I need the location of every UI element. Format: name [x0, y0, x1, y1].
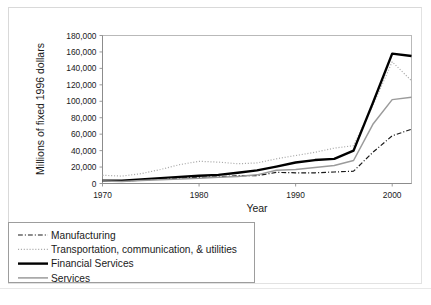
y-tick-label: 180,000 [66, 31, 97, 41]
y-tick-label: 160,000 [66, 47, 97, 57]
x-axis-tick-labels: 1970198019902000 [93, 190, 402, 200]
x-tick-label: 2000 [383, 190, 402, 200]
y-tick-label: 120,000 [66, 80, 97, 90]
x-tick-label: 1970 [93, 190, 112, 200]
y-tick-label: 60,000 [71, 129, 97, 139]
legend-label-0: Manufacturing [51, 230, 116, 241]
line-chart: 020,00040,00060,00080,000100,000120,0001… [0, 0, 431, 305]
x-tick-label: 1980 [190, 190, 209, 200]
x-tick-label: 1990 [286, 190, 305, 200]
x-axis-title: Year [246, 202, 268, 214]
legend-label-1: Transportation, communication, & utiliti… [51, 244, 237, 255]
y-tick-label: 140,000 [66, 63, 97, 73]
y-tick-label: 20,000 [71, 162, 97, 172]
y-tick-label: 100,000 [66, 96, 97, 106]
y-tick-label: 0 [92, 179, 97, 189]
y-tick-label: 40,000 [71, 146, 97, 156]
y-axis-tick-labels: 020,00040,00060,00080,000100,000120,0001… [66, 31, 97, 189]
plot-area-frame [103, 36, 412, 184]
legend-label-2: Financial Services [51, 258, 134, 269]
legend-label-3: Services [51, 273, 90, 284]
figure-container: 020,00040,00060,00080,000100,000120,0001… [0, 0, 431, 305]
y-tick-label: 80,000 [71, 113, 97, 123]
y-axis-title: Millions of fixed 1996 dollars [34, 43, 46, 175]
